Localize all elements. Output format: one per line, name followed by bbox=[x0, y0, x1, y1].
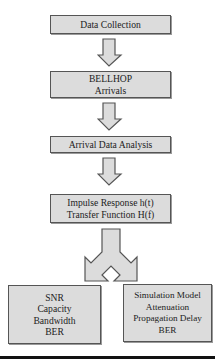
arrival-data-analysis-label: Arrival Data Analysis bbox=[69, 139, 153, 151]
down-arrow-icon bbox=[97, 157, 123, 187]
data-collection-label: Data Collection bbox=[80, 19, 140, 31]
down-arrow-icon bbox=[97, 102, 123, 132]
bottom-rule bbox=[0, 356, 215, 359]
transfer-function-label: Transfer Function H(f) bbox=[67, 209, 155, 221]
simulation-model-box: Simulation Model Attenuation Propagation… bbox=[123, 284, 212, 342]
attenuation-label: Attenuation bbox=[146, 302, 189, 314]
impulse-transfer-box: Impulse Response h(t) Transfer Function … bbox=[50, 194, 171, 223]
ber-label: BER bbox=[159, 325, 177, 337]
bandwidth-label: Bandwidth bbox=[33, 315, 75, 327]
arrivals-label: Arrivals bbox=[95, 85, 126, 97]
bellhop-label: BELLHOP bbox=[89, 73, 132, 85]
propagation-delay-label: Propagation Delay bbox=[133, 313, 202, 325]
snr-label: SNR bbox=[45, 292, 64, 304]
bellhop-arrivals-box: BELLHOP Arrivals bbox=[50, 71, 171, 98]
data-collection-box: Data Collection bbox=[50, 15, 171, 34]
split-arrow-icon bbox=[81, 228, 141, 284]
simulation-model-label: Simulation Model bbox=[134, 290, 201, 302]
ber-label: BER bbox=[45, 326, 64, 338]
impulse-response-label: Impulse Response h(t) bbox=[67, 197, 153, 209]
down-arrow-icon bbox=[97, 38, 123, 68]
capacity-label: Capacity bbox=[37, 303, 71, 315]
arrival-data-analysis-box: Arrival Data Analysis bbox=[50, 136, 171, 153]
channel-metrics-box: SNR Capacity Bandwidth BER bbox=[8, 285, 101, 344]
